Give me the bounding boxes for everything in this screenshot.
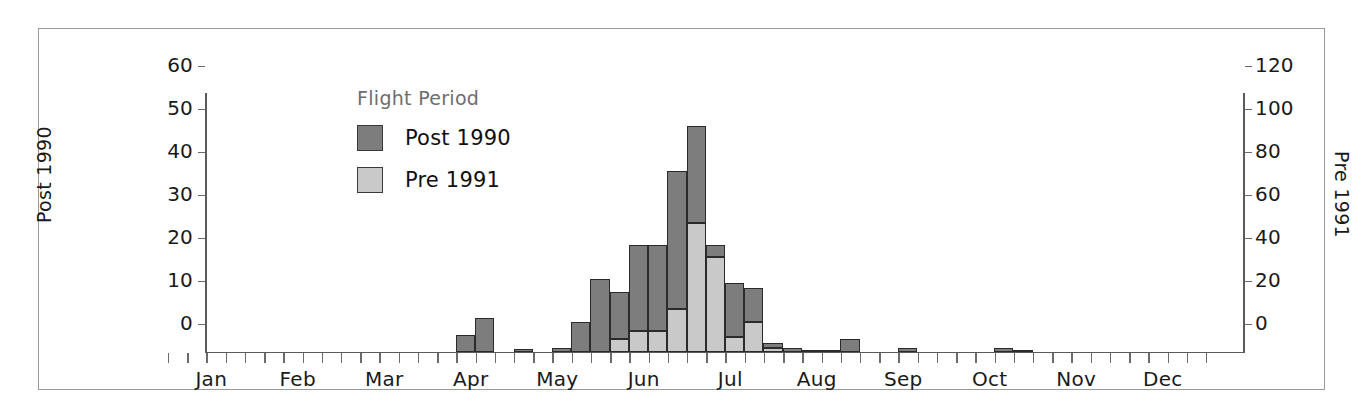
right-tick-label-60: 60 xyxy=(1255,182,1325,206)
x-tick-14 xyxy=(437,353,438,363)
x-tick-3 xyxy=(226,353,227,363)
bar-segment-pre-1991 xyxy=(706,257,725,352)
month-label-apr: Apr xyxy=(426,367,516,391)
left-tick-40 xyxy=(198,152,205,153)
x-tick-12 xyxy=(399,353,400,363)
x-tick-6 xyxy=(283,353,284,363)
bar xyxy=(456,335,475,352)
bar-segment-post-1990 xyxy=(571,322,590,352)
x-tick-51 xyxy=(1148,353,1149,363)
x-tick-31 xyxy=(764,353,765,363)
bar xyxy=(821,350,840,352)
legend-item-post-1990: Post 1990 xyxy=(357,125,511,151)
bar-segment-post-1990 xyxy=(802,350,821,352)
bar xyxy=(783,348,802,352)
bar-segment-post-1990 xyxy=(552,348,571,352)
x-tick-22 xyxy=(591,353,592,363)
x-tick-27 xyxy=(687,353,688,363)
right-axis-title: Pre 1991 xyxy=(1331,151,1353,238)
bar-segment-post-1990 xyxy=(898,348,917,352)
right-tick-60 xyxy=(1245,195,1252,196)
bar-segment-pre-1991 xyxy=(763,348,782,352)
bar xyxy=(898,348,917,352)
month-label-feb: Feb xyxy=(253,367,343,391)
bar xyxy=(667,171,686,352)
x-tick-35 xyxy=(841,353,842,363)
x-tick-9 xyxy=(341,353,342,363)
bar xyxy=(590,279,609,352)
bar-segment-post-1990 xyxy=(725,283,744,337)
bar-segment-post-1990 xyxy=(514,349,533,352)
month-label-oct: Oct xyxy=(945,367,1035,391)
month-label-dec: Dec xyxy=(1118,367,1208,391)
bar xyxy=(648,245,667,353)
bar-segment-post-1990 xyxy=(629,245,648,331)
x-tick-15 xyxy=(456,353,457,363)
bar xyxy=(610,292,629,352)
x-tick-18 xyxy=(514,353,515,363)
bar xyxy=(763,343,782,352)
x-tick-46 xyxy=(1052,353,1053,363)
bar-segment-post-1990 xyxy=(840,339,859,352)
x-tick-11 xyxy=(379,353,380,363)
legend-title: Flight Period xyxy=(357,87,511,109)
right-tick-label-120: 120 xyxy=(1255,53,1325,77)
right-tick-80 xyxy=(1245,152,1252,153)
x-tick-34 xyxy=(822,353,823,363)
bar-segment-pre-1991 xyxy=(610,339,629,352)
bar xyxy=(744,288,763,353)
x-tick-29 xyxy=(725,353,726,363)
x-tick-26 xyxy=(668,353,669,363)
x-tick-37 xyxy=(879,353,880,363)
x-tick-30 xyxy=(745,353,746,363)
x-tick-32 xyxy=(783,353,784,363)
bar xyxy=(706,245,725,353)
bar-segment-post-1990 xyxy=(821,350,840,352)
x-tick-7 xyxy=(303,353,304,363)
chart-legend: Flight Period Post 1990 Pre 1991 xyxy=(357,87,511,209)
x-tick-42 xyxy=(975,353,976,363)
x-tick-44 xyxy=(1014,353,1015,363)
x-tick-24 xyxy=(629,353,630,363)
right-tick-label-20: 20 xyxy=(1255,268,1325,292)
x-tick-33 xyxy=(802,353,803,363)
bar-segment-post-1990 xyxy=(667,171,686,309)
x-tick-20 xyxy=(552,353,553,363)
month-label-jul: Jul xyxy=(685,367,775,391)
x-tick-2 xyxy=(206,353,207,363)
legend-item-pre-1991: Pre 1991 xyxy=(357,167,511,193)
month-label-sep: Sep xyxy=(858,367,948,391)
bar-segment-post-1990 xyxy=(610,292,629,339)
x-tick-0 xyxy=(168,353,169,363)
bar xyxy=(687,126,706,352)
x-tick-47 xyxy=(1071,353,1072,363)
bar-segment-post-1990 xyxy=(706,245,725,258)
bar xyxy=(629,245,648,353)
right-tick-label-0: 0 xyxy=(1255,311,1325,335)
bar-segment-post-1990 xyxy=(1013,350,1032,352)
bar xyxy=(571,322,590,352)
legend-swatch-pre-1991 xyxy=(357,167,383,193)
bar xyxy=(1013,351,1032,352)
bar xyxy=(475,318,494,352)
bar xyxy=(802,350,821,352)
right-tick-label-40: 40 xyxy=(1255,225,1325,249)
bar xyxy=(994,348,1013,352)
left-tick-60 xyxy=(198,66,205,67)
right-tick-20 xyxy=(1245,281,1252,282)
left-tick-label-20: 20 xyxy=(123,225,193,249)
legend-label-post-1990: Post 1990 xyxy=(405,126,511,150)
x-tick-25 xyxy=(649,353,650,363)
bar-segment-pre-1991 xyxy=(648,331,667,353)
x-tick-23 xyxy=(610,353,611,363)
bar-segment-pre-1991 xyxy=(744,322,763,352)
x-tick-49 xyxy=(1110,353,1111,363)
x-tick-53 xyxy=(1187,353,1188,363)
left-tick-label-10: 10 xyxy=(123,268,193,292)
legend-swatch-post-1990 xyxy=(357,125,383,151)
x-tick-41 xyxy=(956,353,957,363)
bar-segment-pre-1991 xyxy=(687,223,706,352)
chart-page: Post 1990 Pre 1991 0102030405060 0204060… xyxy=(0,0,1365,413)
bar xyxy=(514,349,533,352)
bar-segment-post-1990 xyxy=(994,348,1013,352)
